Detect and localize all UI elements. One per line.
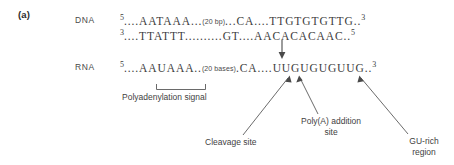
annotation-polya-addition-site-line2: site	[288, 127, 374, 138]
annotation-polya-addition-site: Poly(A) addition site	[288, 116, 374, 137]
figure-panel-a: (a) DNA 5....AATAAA...(20 bp)...CA....TT…	[0, 0, 454, 165]
annotation-gu-rich-region: GU-rich region	[398, 136, 450, 157]
annotation-gu-rich-region-line1: GU-rich	[398, 136, 450, 147]
annotation-polya-addition-site-line1: Poly(A) addition	[288, 116, 374, 127]
annotation-cleavage-site: Cleavage site	[205, 137, 257, 148]
annotation-gu-rich-region-line2: region	[398, 147, 450, 158]
